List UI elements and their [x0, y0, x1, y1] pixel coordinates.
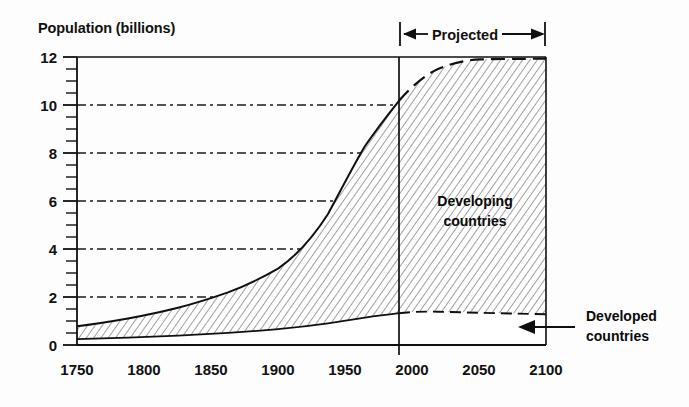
y-tick-label-6: 6: [49, 193, 57, 210]
developing-countries-label-line1: Developing: [437, 193, 512, 209]
x-tick-label-2100: 2100: [529, 361, 562, 378]
projected-label: Projected: [432, 27, 498, 43]
x-tick-label-1900: 1900: [261, 361, 294, 378]
population-projection-chart: Population (billions): [0, 0, 689, 407]
y-tick-label-2: 2: [49, 289, 57, 306]
y-tick-label-0: 0: [49, 337, 57, 354]
developing-countries-label-line2: countries: [443, 213, 506, 229]
x-tick-label-2000: 2000: [395, 361, 428, 378]
y-tick-label-4: 4: [49, 241, 58, 258]
x-tick-label-1800: 1800: [127, 361, 160, 378]
y-tick-label-8: 8: [49, 145, 57, 162]
projected-annotation: Projected: [400, 22, 545, 46]
y-axis-title: Population (billions): [38, 20, 176, 36]
developed-countries-label-line1: Developed: [586, 308, 657, 324]
y-tick-label-10: 10: [40, 97, 57, 114]
chart-canvas: Population (billions): [0, 0, 689, 407]
projected-arrow-right-head: [531, 29, 545, 40]
developed-countries-label-line2: countries: [586, 328, 649, 344]
projected-arrow-left-head: [403, 29, 416, 40]
x-tick-label-2050: 2050: [462, 361, 495, 378]
y-tick-label-12: 12: [40, 49, 57, 66]
x-tick-label-1850: 1850: [194, 361, 227, 378]
x-tick-label-1950: 1950: [328, 361, 361, 378]
y-axis-major-ticks: [63, 57, 77, 345]
x-tick-label-1750: 1750: [60, 361, 93, 378]
